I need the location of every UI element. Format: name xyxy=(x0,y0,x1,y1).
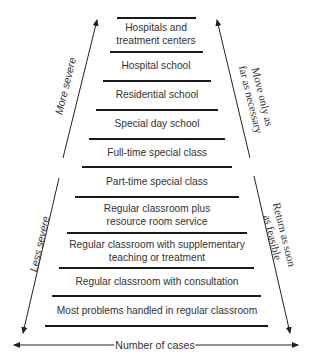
tier-consultation: Regular classroom with consultation xyxy=(75,276,238,289)
tier-part-time-special-class: Part-time special class xyxy=(106,176,208,189)
tier-label-line: Part-time special class xyxy=(106,176,208,189)
tier-resource-room: Regular classroom plus resource room ser… xyxy=(104,203,210,228)
tier-label-line: teaching or treatment xyxy=(69,252,245,265)
tier-label-line: resource room service xyxy=(104,216,210,229)
tier-label-line: Full-time special class xyxy=(107,147,207,160)
tier-label-line: Regular classroom plus xyxy=(104,203,210,216)
tier-hospitals: Hospitals and treatment centers xyxy=(116,22,195,47)
tier-label-line: Hospital school xyxy=(121,60,190,73)
tier-supplementary-teaching: Regular classroom with supplementary tea… xyxy=(69,239,245,264)
tier-label-line: Most problems handled in regular classro… xyxy=(57,305,257,318)
tier-label-line: Hospitals and xyxy=(116,22,195,35)
service-cascade-diagram: Hospitals and treatment centers Hospital… xyxy=(0,0,311,356)
tier-hospital-school: Hospital school xyxy=(121,60,190,73)
tier-full-time-special-class: Full-time special class xyxy=(107,147,207,160)
tier-label-line: Regular classroom with supplementary xyxy=(69,239,245,252)
tier-special-day-school: Special day school xyxy=(115,118,200,131)
tier-label-line: Residential school xyxy=(116,89,199,102)
tier-residential-school: Residential school xyxy=(116,89,199,102)
tier-label-line: Special day school xyxy=(115,118,200,131)
tier-regular-classroom: Most problems handled in regular classro… xyxy=(57,305,257,318)
tier-label-line: Regular classroom with consultation xyxy=(75,276,238,289)
number-of-cases-label: Number of cases xyxy=(114,339,195,351)
tier-label-line: treatment centers xyxy=(116,35,195,48)
